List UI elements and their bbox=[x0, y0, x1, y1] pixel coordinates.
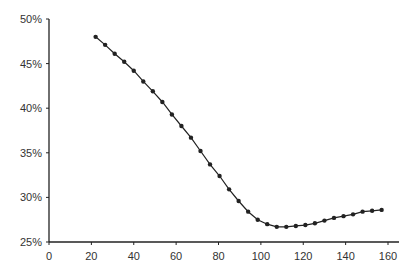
x-tick-label: 120 bbox=[294, 250, 312, 262]
data-point bbox=[141, 79, 145, 83]
data-point bbox=[170, 112, 174, 116]
data-point bbox=[370, 209, 374, 213]
plot-area bbox=[93, 35, 383, 229]
data-point bbox=[284, 225, 288, 229]
data-point bbox=[351, 212, 355, 216]
x-tick-label: 60 bbox=[170, 250, 182, 262]
x-tick-label: 20 bbox=[85, 250, 97, 262]
data-point bbox=[341, 214, 345, 218]
data-point bbox=[322, 218, 326, 222]
data-point bbox=[103, 43, 107, 47]
data-point bbox=[236, 199, 240, 203]
y-tick-label: 35% bbox=[20, 147, 42, 159]
line-chart: 25%30%35%40%45%50% 020406080100120140160 bbox=[0, 0, 414, 278]
data-point bbox=[265, 222, 269, 226]
x-tick-label: 160 bbox=[379, 250, 397, 262]
data-point bbox=[332, 216, 336, 220]
data-point bbox=[294, 224, 298, 228]
data-point bbox=[313, 221, 317, 225]
data-point bbox=[360, 209, 364, 213]
data-point bbox=[198, 149, 202, 153]
data-point bbox=[122, 60, 126, 64]
y-tick-label: 45% bbox=[20, 58, 42, 70]
data-point bbox=[227, 187, 231, 191]
x-tick-label: 0 bbox=[46, 250, 52, 262]
data-point bbox=[160, 100, 164, 104]
x-axis: 020406080100120140160 bbox=[46, 242, 399, 262]
y-tick-label: 30% bbox=[20, 191, 42, 203]
x-tick-label: 80 bbox=[212, 250, 224, 262]
data-point bbox=[112, 52, 116, 56]
data-point bbox=[93, 35, 97, 39]
data-point bbox=[151, 89, 155, 93]
data-point bbox=[255, 218, 259, 222]
x-tick-label: 100 bbox=[252, 250, 270, 262]
data-point bbox=[379, 208, 383, 212]
data-point bbox=[275, 225, 279, 229]
y-tick-label: 40% bbox=[20, 102, 42, 114]
data-point bbox=[179, 124, 183, 128]
data-point bbox=[208, 162, 212, 166]
x-tick-label: 140 bbox=[336, 250, 354, 262]
data-point bbox=[303, 223, 307, 227]
y-tick-label: 25% bbox=[20, 236, 42, 248]
y-tick-label: 50% bbox=[20, 13, 42, 25]
data-point bbox=[246, 209, 250, 213]
series-line bbox=[96, 37, 382, 227]
data-point bbox=[132, 69, 136, 73]
x-tick-label: 40 bbox=[128, 250, 140, 262]
data-point bbox=[217, 174, 221, 178]
data-point bbox=[189, 135, 193, 139]
y-axis: 25%30%35%40%45%50% bbox=[20, 13, 49, 248]
